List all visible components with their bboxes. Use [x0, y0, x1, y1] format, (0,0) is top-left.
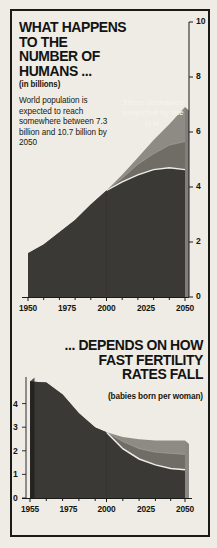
population-x-tick-2025: 2025	[137, 303, 155, 313]
population-chart-panel: WHAT HAPPENS TO THE NUMBER OF HUMANS ...…	[0, 0, 217, 315]
population-x-tick-1975: 1975	[58, 303, 76, 313]
population-blurb: World population is expected to reach so…	[19, 96, 111, 149]
fertility-x-tick-1955: 1955	[21, 504, 39, 514]
fertility-y-tick-2: 2	[13, 446, 18, 456]
population-y-tick-0: 0	[196, 291, 201, 301]
population-y-tick-8: 8	[196, 71, 201, 81]
fertility-y-tick-3: 3	[13, 422, 18, 432]
fertility-x-tick-1975: 1975	[59, 504, 77, 514]
fertility-right-face	[185, 440, 189, 498]
fertility-y-ticks	[22, 404, 26, 498]
population-x-tick-1950: 1950	[19, 303, 37, 313]
population-x-tick-2000: 2000	[98, 303, 116, 313]
fertility-y-tick-4: 4	[13, 399, 18, 409]
population-y-tick-6: 6	[196, 126, 201, 136]
population-right-face	[185, 107, 189, 297]
population-headline: WHAT HAPPENS TO THE NUMBER OF HUMANS ...	[19, 20, 127, 78]
fertility-chart-panel: ... DEPENDS ON HOW FAST FERTILITY RATES …	[0, 315, 217, 548]
fertility-headline: ... DEPENDS ON HOW FAST FERTILITY RATES …	[64, 338, 204, 382]
fertility-x-tick-2000: 2000	[98, 504, 116, 514]
population-y-tick-2: 2	[196, 236, 201, 246]
fertility-y-tick-0: 0	[13, 493, 18, 503]
fertility-y-tick-1: 1	[13, 469, 18, 479]
fertility-x-axis-labels: 1955 1975 2000 2025 2050	[0, 504, 217, 518]
population-y-tick-4: 4	[196, 181, 201, 191]
fertility-left-face	[30, 378, 35, 498]
population-y-tick-10: 10	[196, 16, 205, 26]
population-y-ticks	[189, 22, 193, 297]
fertility-x-tick-2025: 2025	[137, 504, 155, 514]
population-subhead: (in billions)	[19, 79, 60, 89]
population-callout: Three scenarios projected by the U.N.	[120, 98, 186, 129]
infographic-page: WHAT HAPPENS TO THE NUMBER OF HUMANS ...…	[0, 0, 217, 548]
population-x-tick-2050: 2050	[176, 303, 194, 313]
fertility-subhead: (babies born per woman)	[103, 392, 203, 402]
fertility-x-tick-2050: 2050	[176, 504, 194, 514]
